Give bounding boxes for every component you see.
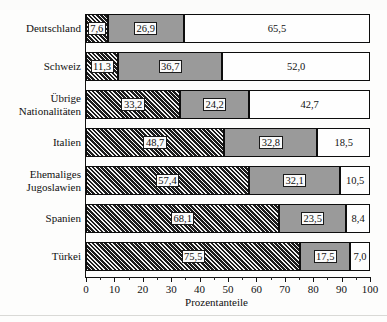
category-label: Türkei: [0, 250, 81, 263]
bar-segment: 7,6: [86, 14, 108, 43]
x-tick-label: 30: [166, 283, 177, 295]
segment-value-label: 10,5: [346, 175, 364, 186]
x-tick-major: [171, 277, 172, 282]
x-axis-title-text: Prozentanteile: [185, 296, 248, 308]
bar-segment: 32,8: [224, 128, 317, 157]
bar-segment: 75,5: [86, 242, 300, 271]
x-tick-label: 10: [109, 283, 120, 295]
x-tick-minor: [242, 277, 243, 280]
x-tick-minor: [356, 277, 357, 280]
segment-value-label: 23,5: [301, 212, 324, 225]
segment-value-label: 52,0: [287, 61, 305, 72]
bar-segment: 8,4: [346, 204, 370, 233]
x-tick-minor: [214, 277, 215, 280]
bar-row: 11,336,752,0: [86, 52, 370, 81]
x-tick-major: [285, 277, 286, 282]
bar-segment: 65,5: [184, 14, 370, 43]
category-label: Spanien: [0, 212, 81, 225]
bar-segment: 48,7: [86, 128, 224, 157]
segment-value-label: 17,5: [314, 250, 337, 263]
x-tick-major: [114, 277, 115, 282]
bar-segment: 24,2: [180, 90, 249, 119]
x-tick-minor: [100, 277, 101, 280]
bar-segment: 10,5: [340, 166, 370, 195]
bar-segment: 33,2: [86, 90, 180, 119]
x-tick-label: 80: [308, 283, 319, 295]
segment-value-label: 65,5: [268, 23, 286, 34]
x-tick-label: 50: [223, 283, 234, 295]
bar-segment: 26,9: [108, 14, 184, 43]
x-tick-major: [86, 277, 87, 282]
x-tick-label: 90: [336, 283, 347, 295]
bar-row: 75,517,57,0: [86, 242, 370, 271]
x-tick-major: [342, 277, 343, 282]
segment-value-label: 18,5: [335, 137, 353, 148]
x-tick-minor: [157, 277, 158, 280]
bar-segment: 42,7: [249, 90, 370, 119]
x-tick-minor: [271, 277, 272, 280]
bar-segment: 23,5: [279, 204, 346, 233]
x-tick-major: [200, 277, 201, 282]
x-tick-label: 70: [279, 283, 290, 295]
bar-segment: 57,4: [86, 166, 249, 195]
x-tick-minor: [185, 277, 186, 280]
segment-value-label: 33,2: [121, 98, 144, 111]
segment-value-label: 75,5: [182, 250, 205, 263]
segment-value-label: 8,4: [352, 213, 365, 224]
x-tick-major: [256, 277, 257, 282]
bar-segment: 17,5: [300, 242, 350, 271]
segment-value-label: 26,9: [134, 22, 157, 35]
x-axis-title: Prozentanteile: [0, 296, 387, 308]
bar-segment: 68,1: [86, 204, 279, 233]
bottom-rule: [0, 315, 387, 316]
bar-segment: 36,7: [118, 52, 222, 81]
segment-value-label: 24,2: [203, 98, 226, 111]
bar-segment: 18,5: [317, 128, 370, 157]
segment-value-label: 68,1: [171, 212, 194, 225]
category-label: Ehemaliges Jugoslawien: [0, 168, 81, 193]
category-label: Übrige Nationalitäten: [0, 92, 81, 117]
bar-segment: 52,0: [222, 52, 370, 81]
category-label: Schweiz: [0, 60, 81, 73]
plot-area: 7,626,965,511,336,752,033,224,242,748,73…: [86, 14, 370, 276]
bar-row: 7,626,965,5: [86, 14, 370, 43]
x-tick-major: [143, 277, 144, 282]
bar-row: 68,123,58,4: [86, 204, 370, 233]
x-tick-label: 40: [194, 283, 205, 295]
segment-value-label: 7,6: [88, 22, 106, 35]
bar-segment: 32,1: [249, 166, 340, 195]
segment-value-label: 57,4: [156, 174, 179, 187]
x-tick-minor: [327, 277, 328, 280]
bar-segment: 7,0: [350, 242, 370, 271]
bar-row: 57,432,110,5: [86, 166, 370, 195]
x-tick-major: [228, 277, 229, 282]
segment-value-label: 32,1: [283, 174, 306, 187]
x-tick-label: 100: [362, 283, 379, 295]
bar-row: 48,732,818,5: [86, 128, 370, 157]
segment-value-label: 7,0: [353, 251, 366, 262]
x-tick-label: 60: [251, 283, 262, 295]
x-tick-label: 20: [137, 283, 148, 295]
x-tick-label: 0: [83, 283, 89, 295]
segment-value-label: 42,7: [300, 99, 318, 110]
segment-value-label: 48,7: [143, 136, 166, 149]
x-tick-minor: [299, 277, 300, 280]
x-tick-major: [313, 277, 314, 282]
stacked-bar-chart: DeutschlandSchweizÜbrige NationalitätenI…: [0, 0, 387, 322]
segment-value-label: 32,8: [259, 136, 282, 149]
category-label: Italien: [0, 136, 81, 149]
bar-segment: 11,3: [86, 52, 118, 81]
category-label: Deutschland: [0, 22, 81, 35]
bar-row: 33,224,242,7: [86, 90, 370, 119]
segment-value-label: 11,3: [91, 60, 114, 73]
scan-artifact-band: [0, 0, 387, 10]
x-tick-major: [370, 277, 371, 282]
x-tick-minor: [129, 277, 130, 280]
segment-value-label: 36,7: [159, 60, 182, 73]
